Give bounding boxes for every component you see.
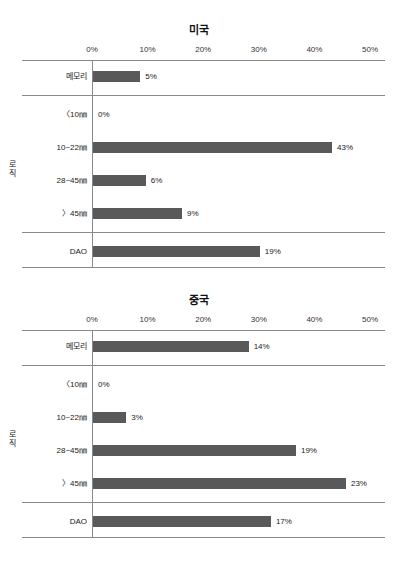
chart-title-china: 중국 xyxy=(0,292,399,308)
chart-row: 〈10㎚0% xyxy=(22,98,385,131)
category-label: 메모리 xyxy=(66,73,87,81)
chart-row: 메모리5% xyxy=(22,60,385,93)
x-tick-china-2: 20% xyxy=(195,312,211,328)
chart-row: 〈10㎚0% xyxy=(22,368,385,401)
group-sep-logic-dao-china xyxy=(22,502,385,503)
bar xyxy=(93,412,126,423)
chart-page: 미국 0%10%20%30%40%50% 로직메모리5%〈10㎚0%10~22㎚… xyxy=(0,0,399,564)
bar xyxy=(93,246,260,257)
group-sep-memory-logic-usa xyxy=(22,95,385,96)
category-label: DAO xyxy=(70,518,87,526)
bar-value-label: 0% xyxy=(98,381,110,389)
bar xyxy=(93,445,296,456)
x-tick-usa-0: 0% xyxy=(86,42,98,58)
chart-title-usa: 미국 xyxy=(0,22,399,38)
x-axis-ticks-usa: 0%10%20%30%40%50% xyxy=(0,42,399,58)
category-label: 28~45㎚ xyxy=(57,177,87,185)
x-tick-usa-3: 30% xyxy=(251,42,267,58)
category-label: 〉45㎚ xyxy=(62,480,87,488)
chart-row: 10~22㎚3% xyxy=(22,401,385,434)
group-sep-logic-dao-usa xyxy=(22,232,385,233)
category-label: DAO xyxy=(70,248,87,256)
chart-row: 28~45㎚19% xyxy=(22,434,385,467)
category-label: 〈10㎚ xyxy=(62,381,87,389)
bar xyxy=(93,71,140,82)
x-tick-china-1: 10% xyxy=(140,312,156,328)
bar-value-label: 0% xyxy=(98,111,110,119)
chart-row: 〉45㎚23% xyxy=(22,467,385,500)
bar-value-label: 19% xyxy=(265,248,281,256)
chart-row: 메모리14% xyxy=(22,330,385,363)
bar-value-label: 9% xyxy=(187,210,199,218)
bar xyxy=(93,175,146,186)
x-tick-usa-5: 50% xyxy=(362,42,378,58)
category-label: 메모리 xyxy=(66,343,87,351)
group-label-logic-china: 로직 xyxy=(8,430,17,448)
x-axis-ticks-china: 0%10%20%30%40%50% xyxy=(0,312,399,328)
x-tick-china-0: 0% xyxy=(86,312,98,328)
chart-row: 28~45㎚6% xyxy=(22,164,385,197)
x-tick-usa-1: 10% xyxy=(140,42,156,58)
bar xyxy=(93,142,332,153)
category-label: 10~22㎚ xyxy=(57,144,87,152)
x-tick-china-4: 40% xyxy=(306,312,322,328)
bar-value-label: 17% xyxy=(276,518,292,526)
bar-value-label: 23% xyxy=(351,480,367,488)
category-label: 〈10㎚ xyxy=(62,111,87,119)
chart-row: DAO19% xyxy=(22,235,385,268)
category-label: 〉45㎚ xyxy=(62,210,87,218)
category-label: 10~22㎚ xyxy=(57,414,87,422)
bar-value-label: 6% xyxy=(151,177,163,185)
category-label: 28~45㎚ xyxy=(57,447,87,455)
group-label-logic-usa: 로직 xyxy=(8,160,17,178)
bar xyxy=(93,341,249,352)
chart-row: 10~22㎚43% xyxy=(22,131,385,164)
chart-china: 중국 0%10%20%30%40%50% 로직메모리14%〈10㎚0%10~22… xyxy=(0,292,399,538)
plot-area-china: 로직메모리14%〈10㎚0%10~22㎚3%28~45㎚19%〉45㎚23%DA… xyxy=(0,330,399,538)
bar-value-label: 14% xyxy=(254,343,270,351)
x-tick-china-3: 30% xyxy=(251,312,267,328)
plot-area-usa: 로직메모리5%〈10㎚0%10~22㎚43%28~45㎚6%〉45㎚9%DAO1… xyxy=(0,60,399,268)
bar-value-label: 3% xyxy=(131,414,143,422)
x-tick-china-5: 50% xyxy=(362,312,378,328)
x-tick-usa-2: 20% xyxy=(195,42,211,58)
group-sep-memory-logic-china xyxy=(22,365,385,366)
chart-usa: 미국 0%10%20%30%40%50% 로직메모리5%〈10㎚0%10~22㎚… xyxy=(0,22,399,268)
bar xyxy=(93,478,346,489)
bar xyxy=(93,208,182,219)
x-tick-usa-4: 40% xyxy=(306,42,322,58)
bar-value-label: 19% xyxy=(301,447,317,455)
bar-value-label: 43% xyxy=(337,144,353,152)
chart-row: DAO17% xyxy=(22,505,385,538)
bar xyxy=(93,516,271,527)
chart-row: 〉45㎚9% xyxy=(22,197,385,230)
bar-value-label: 5% xyxy=(145,73,157,81)
